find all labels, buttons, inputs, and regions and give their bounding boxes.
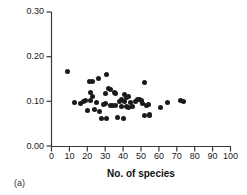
y-tick-0.00: 0.00: [14, 142, 44, 151]
scatter-point: [65, 69, 70, 74]
y-tick-0.20: 0.20: [14, 52, 44, 61]
scatter-point: [103, 101, 108, 106]
y-axis-ticks: [47, 12, 52, 146]
scatter-point: [94, 100, 99, 105]
scatter-point: [103, 91, 108, 96]
scatter-point: [146, 102, 151, 107]
y-tick-0.10: 0.10: [14, 97, 44, 106]
y-tick-0.30: 0.30: [14, 7, 44, 16]
scatter-point: [158, 105, 163, 110]
scatter-point: [130, 104, 135, 109]
scatter-point: [119, 104, 124, 109]
x-axis-label: No. of species: [51, 168, 231, 179]
scatter-point: [90, 79, 95, 84]
figure-caption: (a): [14, 178, 25, 188]
x-tick-100: 100: [221, 152, 241, 161]
scatter-point: [85, 108, 90, 113]
scatter-point: [96, 76, 101, 81]
figure-panel-a: 0.30 0.20 0.10 0.00 01020304050607080901…: [0, 0, 247, 195]
scatter-point: [121, 116, 126, 121]
scatter-point: [72, 100, 77, 105]
